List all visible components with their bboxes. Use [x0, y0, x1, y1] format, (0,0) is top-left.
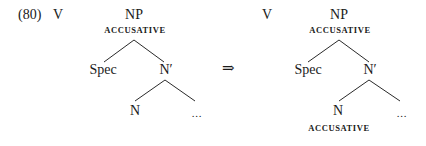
- branch-np-spec-right: [308, 40, 339, 62]
- np-node: NP: [330, 8, 348, 22]
- example-number: (80): [18, 8, 41, 22]
- branch-nbar-n-left: [135, 80, 165, 101]
- branch-np-spec-left: [104, 40, 134, 62]
- np-node: NP: [125, 8, 143, 22]
- n-node: N: [333, 104, 343, 118]
- nbar-node: N′: [159, 63, 172, 77]
- verb-node: V: [53, 8, 63, 22]
- branch-nbar-n-right: [339, 80, 369, 101]
- nbar-node: N′: [363, 63, 376, 77]
- spec-node: Spec: [294, 63, 321, 77]
- branch-np-nbar-right: [339, 40, 369, 62]
- complement-ellipsis: . . .: [397, 106, 406, 120]
- verb-node: V: [262, 8, 272, 22]
- complement-ellipsis: . . .: [192, 106, 201, 120]
- spec-node: Spec: [89, 63, 116, 77]
- branch-np-nbar-left: [134, 40, 164, 62]
- branch-nbar-comp-right: [369, 80, 400, 101]
- branch-nbar-comp-left: [165, 80, 195, 101]
- n-case-feature: ACCUSATIVE: [308, 124, 370, 133]
- transformation-arrow: ⇒: [222, 61, 235, 75]
- n-node: N: [130, 104, 140, 118]
- np-case-feature: ACCUSATIVE: [104, 26, 166, 35]
- np-case-feature: ACCUSATIVE: [309, 26, 371, 35]
